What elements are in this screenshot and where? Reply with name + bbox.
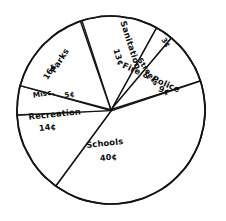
pie-chart-svg: Sanitation13¢Streets3¢Fire & Police9¢Sch…: [0, 0, 226, 221]
slice-value-recreation: 14¢: [39, 121, 57, 133]
slice-value-schools: 40¢: [100, 151, 118, 163]
pie-chart-figure: Sanitation13¢Streets3¢Fire & Police9¢Sch…: [0, 0, 226, 221]
slice-value-misc: 5¢: [64, 89, 76, 100]
